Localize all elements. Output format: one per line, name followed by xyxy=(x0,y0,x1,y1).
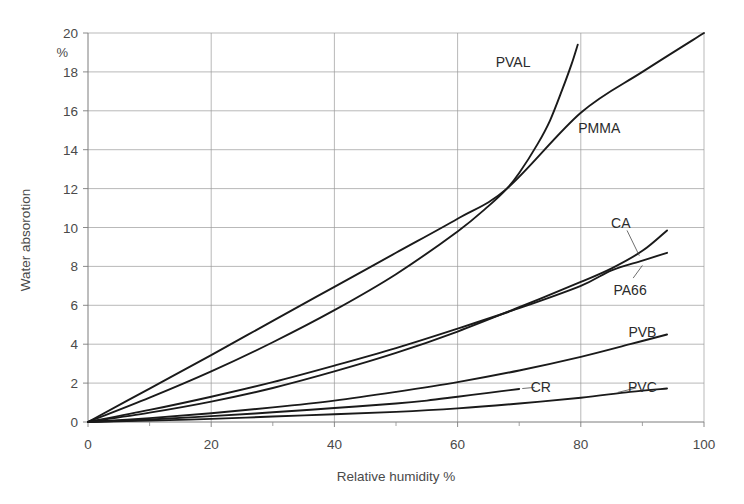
x-axis-tick-label: 20 xyxy=(204,437,219,452)
series-label-pa66: PA66 xyxy=(613,282,646,298)
series-label-pmma: PMMA xyxy=(578,120,621,136)
series-label-ca: CA xyxy=(611,215,631,231)
x-axis-tick-labels: 020406080100 xyxy=(84,437,715,452)
x-axis-tick-label: 100 xyxy=(693,437,716,452)
chart-canvas: 02468101214161820 020406080100 PVALPMMAC… xyxy=(0,0,744,504)
y-axis-tick-label: 20 xyxy=(63,26,78,41)
x-axis-tick-label: 60 xyxy=(450,437,465,452)
curve-ca xyxy=(88,230,667,422)
y-axis-tick-label: 16 xyxy=(63,104,78,119)
y-axis-tick-label: 0 xyxy=(70,415,78,430)
water-absorption-chart: 02468101214161820 020406080100 PVALPMMAC… xyxy=(0,0,744,504)
curve-pa66 xyxy=(88,253,667,422)
y-axis-tick-label: 8 xyxy=(70,259,78,274)
x-axis-tick-label: 40 xyxy=(327,437,342,452)
x-axis-tick-label: 80 xyxy=(573,437,588,452)
y-axis-tick-label: 10 xyxy=(63,221,78,236)
y-axis-tick-labels: 02468101214161820 xyxy=(63,26,79,430)
x-axis-title: Relative humidity % xyxy=(337,469,456,484)
y-axis-tick-label: 12 xyxy=(63,182,78,197)
y-axis-tick-label: 6 xyxy=(70,298,78,313)
leader-line-ca xyxy=(627,230,639,255)
y-axis-tick-label: 4 xyxy=(70,337,78,352)
y-axis-title: Water absorotion xyxy=(18,189,33,291)
series-label-pvb: PVB xyxy=(628,324,656,340)
y-axis-tick-label: 18 xyxy=(63,65,78,80)
series-leader-lines xyxy=(522,230,642,392)
series-label-pval: PVAL xyxy=(496,54,531,70)
y-axis-tick-label: 14 xyxy=(63,143,79,158)
leader-line-pa66 xyxy=(633,265,642,278)
x-axis-tick-label: 0 xyxy=(84,437,92,452)
series-label-pvc: PVC xyxy=(628,379,657,395)
y-axis-tick-label: 2 xyxy=(70,376,78,391)
series-label-cr: CR xyxy=(531,379,551,395)
y-axis-unit-label: % xyxy=(56,45,68,60)
